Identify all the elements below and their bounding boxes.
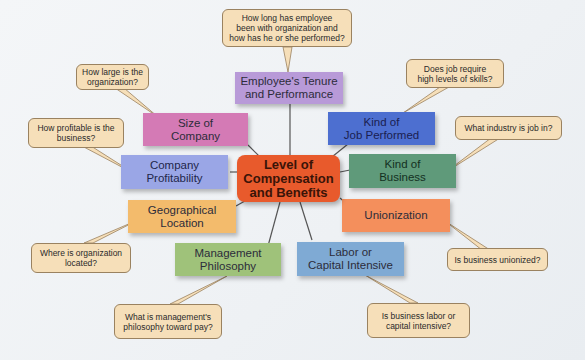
factor-box-management: Management Philosophy [175, 243, 281, 276]
central-node-compensation: Level of Compensation and Benefits [237, 155, 340, 202]
factor-box-business: Kind of Business [349, 154, 456, 188]
question-bubble-unionization: Is business unionized? [447, 248, 548, 271]
factor-box-geography: Geographical Location [128, 200, 236, 233]
factor-box-job: Kind of Job Performed [328, 112, 435, 145]
factor-box-labor-capital: Labor or Capital Intensive [297, 242, 404, 276]
question-bubble-management: What is management's philosophy toward p… [114, 304, 222, 339]
question-bubble-geography: Where is organization located? [31, 243, 131, 273]
question-bubble-job: Does job require high levels of skills? [406, 59, 504, 88]
question-bubble-profitability: How profitable is the business? [28, 118, 124, 148]
factor-box-unionization: Unionization [342, 199, 450, 232]
question-bubble-business: What industry is job in? [455, 116, 562, 140]
factor-box-tenure: Employee's Tenure and Performance [235, 72, 343, 104]
factor-box-profitability: Company Profitability [121, 155, 228, 189]
question-bubble-size: How large is the organization? [76, 64, 149, 90]
question-bubble-tenure: How long has employee been with organiza… [222, 9, 352, 47]
question-bubble-labor-capital: Is business labor or capital intensive? [367, 303, 470, 338]
factor-box-size: Size of Company [143, 113, 248, 146]
